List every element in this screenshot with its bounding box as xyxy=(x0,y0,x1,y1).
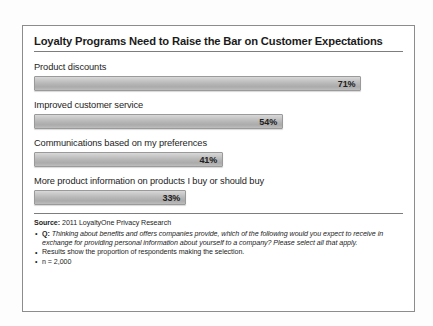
footnote-text: Thinking about benefits and offers compa… xyxy=(42,230,383,247)
bar-track: 33% xyxy=(34,190,403,205)
chart-title: Loyalty Programs Need to Raise the Bar o… xyxy=(34,34,403,48)
bullet-icon: • xyxy=(35,229,37,238)
bar-track: 41% xyxy=(34,152,403,167)
source-text: 2011 LoyaltyOne Privacy Research xyxy=(60,219,171,227)
chart-card-inner: Loyalty Programs Need to Raise the Bar o… xyxy=(34,34,403,305)
question-label: Q: xyxy=(42,230,50,238)
bar-category-label: Improved customer service xyxy=(34,99,403,111)
bar-group: More product information on products I b… xyxy=(34,175,403,205)
bar-group: Product discounts 71% xyxy=(34,61,403,91)
bar-value-label: 71% xyxy=(338,77,356,92)
footnote-item: •n = 2,000 xyxy=(34,258,403,267)
bar-track: 71% xyxy=(34,76,403,91)
source-line: Source: 2011 LoyaltyOne Privacy Research xyxy=(34,219,403,229)
footnote-list: •Q: Thinking about benefits and offers c… xyxy=(34,230,403,268)
footnote-item: •Q: Thinking about benefits and offers c… xyxy=(34,230,403,249)
source-label: Source: xyxy=(34,219,60,227)
bar-fill: 33% xyxy=(34,190,186,205)
bar-track: 54% xyxy=(34,114,403,129)
footnote-text: n = 2,000 xyxy=(42,258,71,266)
bar-value-label: 41% xyxy=(199,153,217,168)
bar-value-label: 33% xyxy=(162,191,180,206)
bar-group: Improved customer service 54% xyxy=(34,99,403,129)
title-divider xyxy=(34,51,403,52)
bar-group: Communications based on my preferences 4… xyxy=(34,137,403,167)
bar-category-label: More product information on products I b… xyxy=(34,175,403,187)
bar-chart-plot: Product discounts 71% Improved customer … xyxy=(34,61,403,205)
bar-category-label: Communications based on my preferences xyxy=(34,137,403,149)
bar-fill: 54% xyxy=(34,114,283,129)
bullet-icon: • xyxy=(35,257,37,266)
chart-figure: Loyalty Programs Need to Raise the Bar o… xyxy=(0,0,433,326)
bar-fill: 71% xyxy=(34,76,361,91)
footer-divider xyxy=(34,213,403,214)
bar-value-label: 54% xyxy=(259,115,277,130)
footnote-text: Results show the proportion of responden… xyxy=(42,248,244,256)
bar-fill: 41% xyxy=(34,152,223,167)
chart-card: Loyalty Programs Need to Raise the Bar o… xyxy=(22,25,415,312)
footnote-item: •Results show the proportion of responde… xyxy=(34,248,403,257)
bullet-icon: • xyxy=(35,248,37,257)
bar-category-label: Product discounts xyxy=(34,61,403,73)
